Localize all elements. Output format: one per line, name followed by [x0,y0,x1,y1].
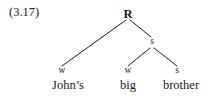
node-internal-s-label: s [150,37,154,47]
leaf-word-1: John’s [52,79,84,92]
edge-s-to-w2 [128,48,150,66]
figure-canvas: (3.17) R s w w s John’s big brother [0,0,209,97]
leaf-word-3: brother [163,79,199,92]
edge-s-to-s3 [154,48,177,66]
leaf-mark-1: w [59,66,66,76]
edge-root-to-w1 [62,20,126,66]
leaf-mark-2: w [125,66,132,76]
node-root-label: R [123,8,132,21]
leaf-word-2: big [120,79,136,92]
leaf-mark-3: s [175,66,179,76]
edge-root-to-s [130,20,151,37]
